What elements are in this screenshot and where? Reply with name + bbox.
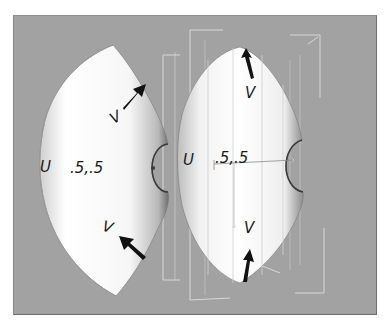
left-surface	[40, 45, 169, 296]
left-u-label: U	[40, 158, 51, 176]
left-center-label: .5,.5	[70, 159, 103, 177]
uv-mapping-scene: U .5,.5 V V U .5,.5 V V	[0, 0, 387, 328]
right-v-label-top: V	[245, 84, 257, 102]
right-center-label: .5,.5	[215, 149, 248, 167]
right-u-label: U	[183, 151, 194, 169]
left-notch-dot	[151, 166, 155, 170]
left-surface-body	[40, 45, 169, 296]
right-v-label-bottom: V	[244, 219, 256, 237]
